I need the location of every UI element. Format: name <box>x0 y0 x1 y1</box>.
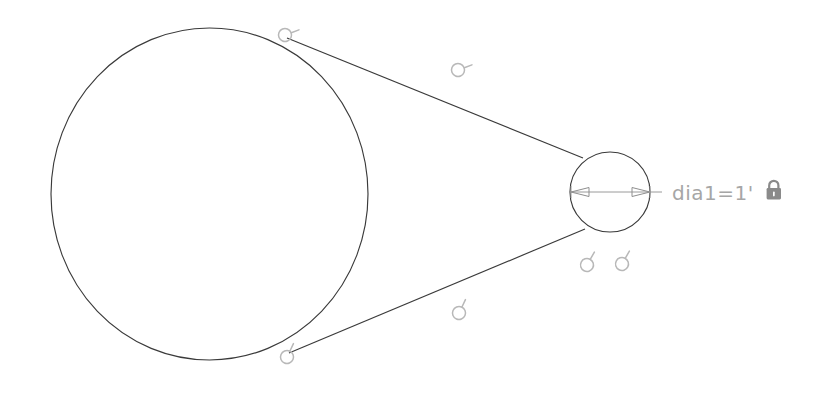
padlock-keyhole-icon <box>773 191 775 196</box>
padlock-icon[interactable] <box>767 181 781 200</box>
sketch-drawing-area[interactable]: dia1=1' <box>0 0 819 400</box>
lower-tangent-line[interactable] <box>289 229 585 353</box>
large-circle[interactable] <box>51 28 368 360</box>
tangent-glyph-pair-right[interactable] <box>613 251 635 272</box>
dimension-label[interactable]: dia1=1' <box>672 181 754 205</box>
tangent-glyph-pair-left[interactable] <box>578 252 600 273</box>
padlock-shackle-icon <box>769 181 778 188</box>
cad-sketch-canvas[interactable]: dia1=1' <box>0 0 819 400</box>
diameter-dimension-graphics[interactable] <box>571 186 662 198</box>
tangent-glyph-lower-left[interactable] <box>277 344 299 366</box>
tangent-glyph-upper-mid[interactable] <box>450 58 472 80</box>
tangent-glyph-lower-mid[interactable] <box>449 300 471 322</box>
upper-tangent-line[interactable] <box>287 38 583 158</box>
